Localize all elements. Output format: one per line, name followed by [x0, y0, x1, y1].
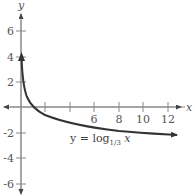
- x-tick-label: 12: [161, 113, 175, 126]
- y-tick-label: -6: [3, 178, 14, 191]
- function-curve: [22, 58, 177, 135]
- plot-area: 6 8 10 12 6 4 2 -2 -4 -6 x y y = log1/3 …: [0, 0, 195, 196]
- x-axis-label: x: [186, 101, 193, 114]
- y-axis-label: y: [17, 0, 25, 12]
- function-label: y = log1/3 x: [69, 132, 131, 147]
- y-tick-label: 2: [7, 76, 14, 89]
- y-tick-label: -2: [3, 127, 14, 140]
- x-tick-label: 10: [136, 113, 150, 126]
- chart: 6 8 10 12 6 4 2 -2 -4 -6 x y y = log1/3 …: [0, 0, 195, 196]
- y-tick-label: 4: [7, 51, 14, 64]
- y-tick-label: -4: [3, 152, 14, 165]
- x-tick-label: 6: [91, 113, 98, 126]
- y-tick-label: 6: [7, 25, 14, 38]
- x-tick-label: 8: [116, 113, 123, 126]
